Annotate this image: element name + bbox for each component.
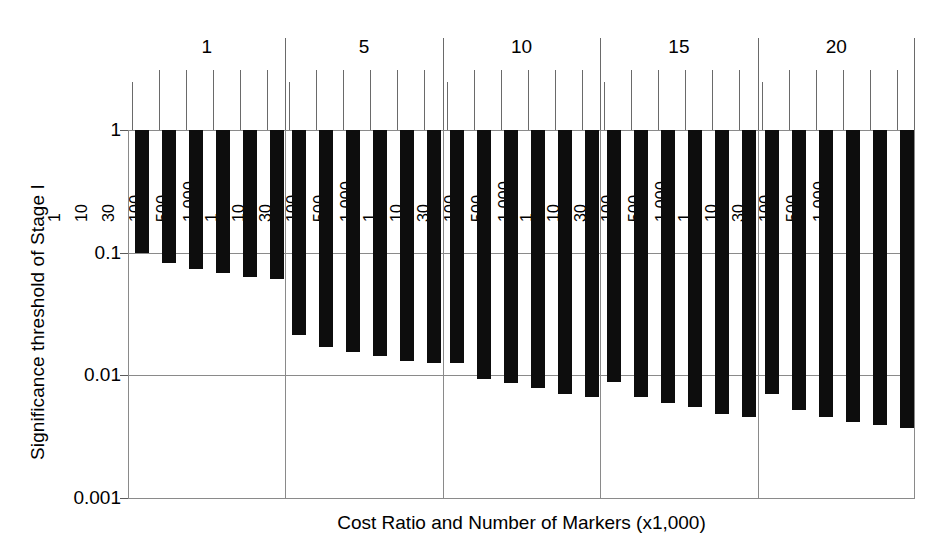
bar-tick: [631, 70, 632, 130]
y-tick-label: 0.001: [44, 487, 128, 509]
bar: [634, 130, 648, 397]
bar-tick: [582, 70, 583, 130]
y-tick-mark: [120, 130, 128, 131]
bar: [607, 130, 621, 382]
bar-tick: [424, 70, 425, 130]
y-tick-mark: [120, 253, 128, 254]
bar-tick: [447, 82, 448, 130]
bar: [427, 130, 441, 363]
bar: [450, 130, 464, 363]
x-axis-title: Cost Ratio and Number of Markers (x1,000…: [128, 512, 915, 534]
gridline: [128, 498, 915, 499]
bar: [819, 130, 833, 417]
bar: [846, 130, 860, 422]
bar: [792, 130, 806, 410]
bar: [661, 130, 675, 403]
bar-tick: [289, 82, 290, 130]
plot-right-edge: [914, 130, 915, 498]
group-label: 10: [511, 36, 532, 58]
bar-tick: [555, 70, 556, 130]
bar: [765, 130, 779, 394]
group-label: 1: [201, 36, 212, 58]
plot-right-edge-header: [914, 38, 915, 130]
bar-tick: [816, 70, 817, 130]
bar: [477, 130, 491, 379]
bar: [715, 130, 729, 414]
bar: [162, 130, 176, 263]
bar-tick: [528, 70, 529, 130]
bar: [688, 130, 702, 407]
bar: [900, 130, 914, 428]
bar-tick: [213, 70, 214, 130]
plot-area: [128, 130, 915, 498]
bar: [243, 130, 257, 277]
bar: [504, 130, 518, 383]
bar-tick: [316, 70, 317, 130]
bar: [531, 130, 545, 388]
group-label: 15: [668, 36, 689, 58]
bar-tick: [474, 70, 475, 130]
y-axis-ticks: 10.10.010.001: [0, 0, 128, 555]
bar: [292, 130, 306, 335]
bar-tick: [739, 70, 740, 130]
bar-tick: [132, 82, 133, 130]
bar-tick: [658, 70, 659, 130]
bar: [319, 130, 333, 347]
chart-figure: Significance threshold of Stage I 10.10.…: [0, 0, 952, 555]
bar: [189, 130, 203, 269]
group-separator-plot: [285, 130, 286, 498]
bar-tick: [159, 70, 160, 130]
group-separator-plot: [600, 130, 601, 498]
group-label: 5: [359, 36, 370, 58]
bar-tick: [343, 70, 344, 130]
group-separator: [285, 38, 286, 130]
group-separator-plot: [443, 130, 444, 498]
bar: [742, 130, 756, 417]
bar-tick: [267, 70, 268, 130]
group-separator-plot: [758, 130, 759, 498]
y-tick-label: 0.01: [44, 364, 128, 386]
bar-tick: [685, 70, 686, 130]
bar: [873, 130, 887, 425]
chart-header-labels: 1110301005001,0005110301005001,000101103…: [128, 34, 915, 130]
bar-tick: [712, 70, 713, 130]
bar: [270, 130, 284, 279]
bar: [373, 130, 387, 356]
bar: [216, 130, 230, 273]
y-tick-mark: [120, 375, 128, 376]
group-label: 20: [826, 36, 847, 58]
y-tick-label: 0.1: [44, 242, 128, 264]
bar: [585, 130, 599, 397]
group-separator: [600, 38, 601, 130]
bar-tick: [762, 82, 763, 130]
y-tick-label: 1: [44, 119, 128, 141]
bar-tick: [501, 70, 502, 130]
bar-tick: [604, 82, 605, 130]
bar: [135, 130, 149, 253]
bar-tick: [186, 70, 187, 130]
group-separator: [443, 38, 444, 130]
bar-tick: [397, 70, 398, 130]
bar: [558, 130, 572, 394]
bar-tick: [240, 70, 241, 130]
y-tick-mark: [120, 498, 128, 499]
y-axis-line: [128, 130, 129, 498]
bar-tick: [843, 70, 844, 130]
bar-tick: [897, 70, 898, 130]
bar: [400, 130, 414, 361]
bar: [346, 130, 360, 352]
bar-tick: [370, 70, 371, 130]
group-separator: [758, 38, 759, 130]
bar-tick: [789, 70, 790, 130]
bar-tick: [870, 70, 871, 130]
